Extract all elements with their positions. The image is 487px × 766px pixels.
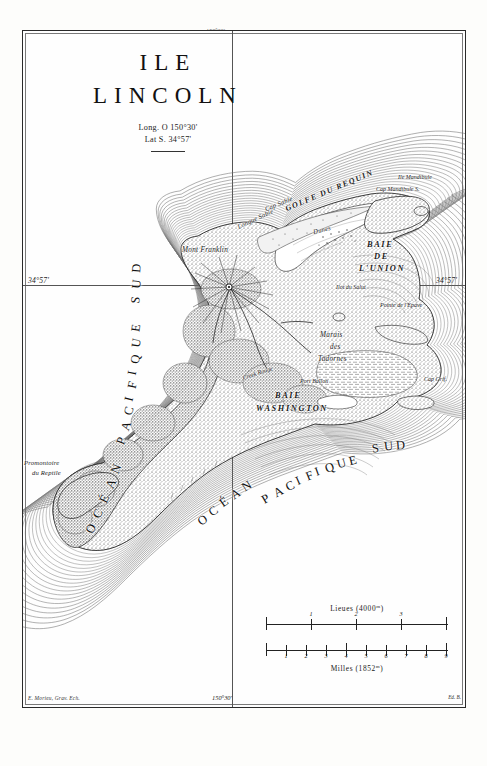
scale-lieues-line	[266, 624, 448, 625]
scale-milles-num-2: 2	[304, 652, 307, 659]
engraver-credit: E. Morieu, Grav. Ech.	[28, 695, 80, 701]
scale-milles-num-1: 1	[284, 652, 287, 659]
baie-de-lunion-label-line2: DE	[374, 252, 389, 261]
scale-milles-caption: Milles (1852m)	[262, 664, 452, 673]
ilot-du-salut-label: Ilot du Salut	[336, 284, 366, 290]
scale-milles-tick-0	[266, 643, 267, 656]
baie-washington-label-line1: BAIE	[275, 391, 301, 400]
cap-griffon-label: Cap Grif.	[424, 376, 447, 382]
left-latitude-label: 34°57'	[28, 276, 49, 285]
pointe-de-lepave-label: Pointe de l'Épave	[380, 302, 422, 308]
right-latitude-label: 34°57'	[436, 276, 457, 285]
scale-lieues-tick-3	[401, 619, 402, 630]
title-block: ILE LINCOLN Long. O 150°30' Lat S. 34°57…	[78, 46, 258, 152]
page-title-line1: ILE	[78, 46, 258, 79]
scale-lieues-tick-4	[446, 617, 447, 630]
baie-de-lunion-label-line1: BAIE	[367, 240, 393, 249]
coordinates-block: Long. O 150°30' Lat S. 34°57'	[78, 122, 258, 147]
baie-washington-label-line2: WASHINGTON	[256, 404, 328, 413]
scale-milles-num-5: 5	[364, 652, 367, 659]
scale-lieues-tick-2	[356, 619, 357, 630]
scale-lieues-tick-1	[311, 619, 312, 630]
scale-milles-num-6: 6	[384, 652, 387, 659]
scale-milles-num-8: 8	[424, 652, 427, 659]
scale-lieues-num-1: 1	[309, 610, 312, 617]
marais-des-tadornes-line1: Marais	[320, 331, 343, 339]
longitude-value: Long. O 150°30'	[78, 122, 258, 134]
cap-mandibule-sud-label: Cap Mandibule S.	[376, 186, 420, 192]
marais-des-tadornes-line2: des	[330, 343, 340, 351]
page-title-line2: LINCOLN	[78, 79, 258, 112]
scale-milles-num-4: 4	[344, 652, 347, 659]
scale-lieues-tick-0	[266, 617, 267, 630]
baie-de-lunion-label-line3: L'UNION	[359, 264, 405, 273]
scale-milles-bar: 1 2 3 4 5 6 7 8 9	[262, 642, 452, 659]
mont-franklin-label: Mont Franklin	[182, 246, 228, 254]
title-divider	[151, 151, 185, 152]
promontoire-du-reptile-line1: Promontoire	[24, 459, 59, 466]
scale-lieues-num-3: 3	[399, 610, 402, 617]
latitude-value: Lat S. 34°57'	[78, 134, 258, 146]
scale-lieues-num-2: 2	[354, 610, 357, 617]
marais-des-tadornes-line3: Tadornes	[318, 355, 347, 363]
bottom-longitude-label: 150°30'	[212, 694, 232, 701]
port-ballon-label: Port Ballon	[300, 378, 328, 384]
scale-milles-num-3: 3	[324, 652, 327, 659]
promontoire-du-reptile-line2: du Reptile	[32, 469, 61, 476]
scale-lieues-bar: 1 2 3	[262, 616, 452, 633]
plate-credit: Ed. B.	[448, 694, 461, 700]
scale-milles-num-9: 9	[444, 652, 447, 659]
map-plate-page: 150°30'	[0, 0, 487, 766]
scale-milles-line	[266, 650, 448, 651]
ile-mandibule-label: Ile Mandibule	[398, 174, 432, 180]
scale-bars: Lieues (4000m) 1 2 3 1 2	[262, 604, 452, 674]
scale-milles-num-7: 7	[404, 652, 407, 659]
